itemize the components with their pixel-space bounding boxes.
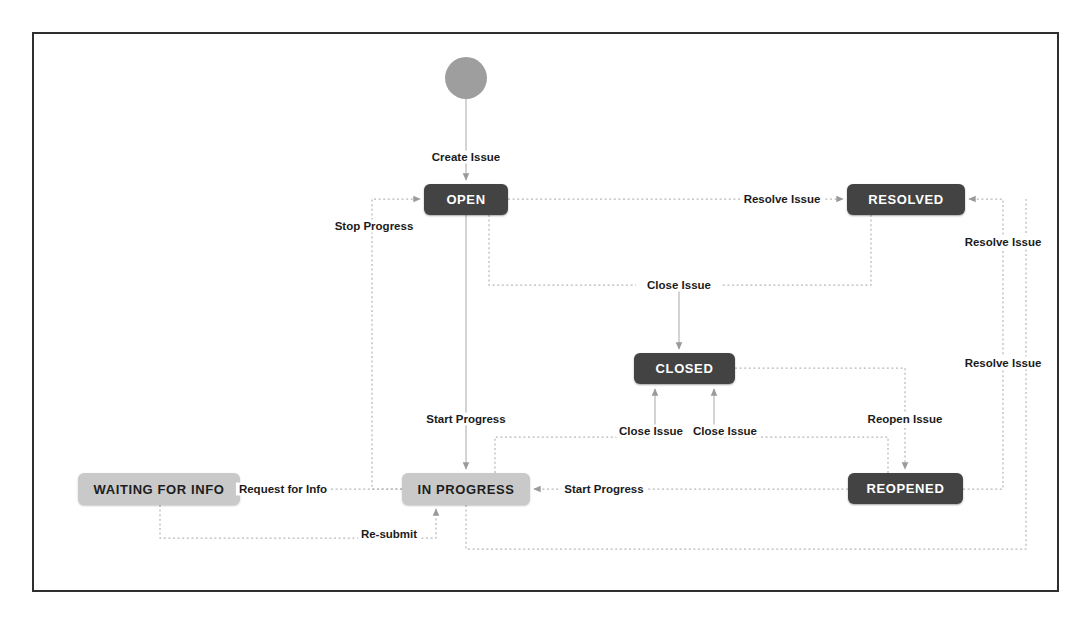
state-node-closed[interactable]: CLOSED bbox=[634, 353, 735, 384]
edge-label-create-issue: Create Issue bbox=[429, 151, 503, 164]
edge-open-close bbox=[489, 215, 636, 285]
state-node-waiting-for-info[interactable]: WAITING FOR INFO bbox=[78, 473, 240, 505]
edge-label-reopened-close-issue: Close Issue bbox=[690, 425, 760, 438]
edge-label-reopened-resolve-issue: Resolve Issue bbox=[962, 236, 1045, 249]
edge-label-open-close-issue: Close Issue bbox=[644, 279, 714, 292]
edge-label-inprogress-resolve-issue: Resolve Issue bbox=[962, 357, 1045, 370]
state-label-closed: CLOSED bbox=[656, 361, 714, 376]
edge-label-open-resolve-issue: Resolve Issue bbox=[741, 193, 824, 206]
edge-label-request-for-info: Request for Info bbox=[236, 483, 330, 496]
edge-stop-progress bbox=[372, 199, 420, 489]
state-label-open: OPEN bbox=[446, 192, 485, 207]
edge-label-start-progress-open: Start Progress bbox=[423, 413, 508, 426]
edge-inprogress-close bbox=[495, 437, 655, 473]
state-node-resolved[interactable]: RESOLVED bbox=[847, 184, 965, 215]
edge-reopened-close bbox=[714, 437, 888, 473]
state-label-reopened: REOPENED bbox=[867, 481, 945, 496]
edge-label-reopened-start-progress: Start Progress bbox=[561, 483, 646, 496]
start-node bbox=[445, 57, 487, 99]
state-node-in-progress[interactable]: IN PROGRESS bbox=[402, 473, 530, 505]
state-node-open[interactable]: OPEN bbox=[424, 184, 508, 215]
state-label-resolved: RESOLVED bbox=[868, 192, 943, 207]
edge-label-re-submit: Re-submit bbox=[358, 528, 420, 541]
edge-label-stop-progress: Stop Progress bbox=[332, 220, 417, 233]
state-label-in-progress: IN PROGRESS bbox=[418, 482, 515, 497]
state-node-reopened[interactable]: REOPENED bbox=[848, 473, 963, 504]
workflow-diagram-page: OPEN RESOLVED CLOSED IN PROGRESS REOPENE… bbox=[0, 0, 1086, 618]
edge-resolved-close bbox=[722, 215, 871, 285]
state-label-waiting-for-info: WAITING FOR INFO bbox=[94, 482, 225, 497]
edge-label-reopen-issue: Reopen Issue bbox=[865, 413, 946, 426]
edge-label-inprogress-close-issue: Close Issue bbox=[616, 425, 686, 438]
diagram-connectors bbox=[0, 0, 1086, 618]
